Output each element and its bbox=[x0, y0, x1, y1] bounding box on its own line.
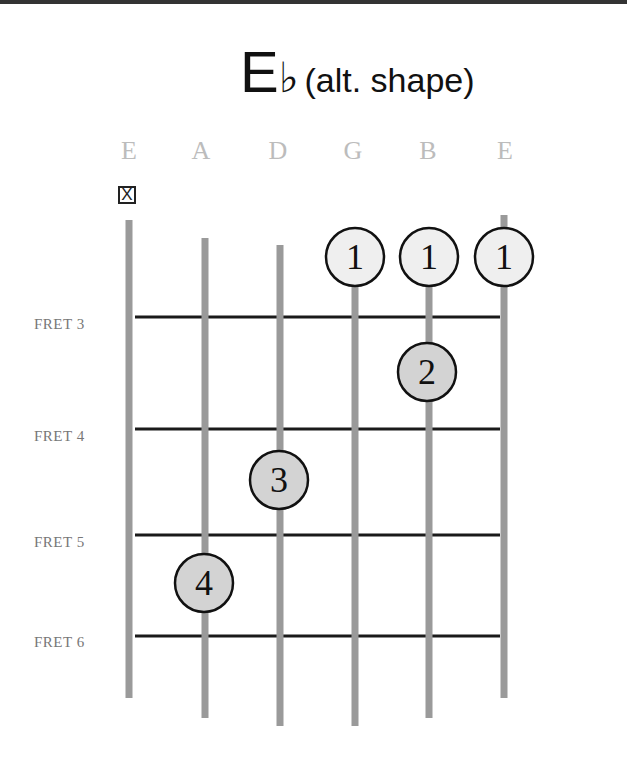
finger-number: 1 bbox=[346, 237, 364, 277]
finger-number: 1 bbox=[495, 237, 513, 277]
finger-number: 4 bbox=[195, 563, 213, 603]
fretboard: 111234 bbox=[0, 0, 627, 777]
finger-number: 3 bbox=[270, 460, 288, 500]
finger-number: 1 bbox=[420, 237, 438, 277]
finger-number: 2 bbox=[418, 352, 436, 392]
